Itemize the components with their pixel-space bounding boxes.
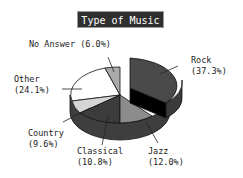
label-jazz: Jazz (12.0%): [148, 146, 184, 168]
label-no-answer: No Answer (6.0%): [29, 39, 111, 50]
label-classical: Classical (10.8%): [77, 146, 123, 168]
label-rock: Rock (37.3%): [191, 55, 227, 77]
label-country: Country (9.6%): [28, 128, 64, 150]
label-other: Other (24.1%): [14, 74, 50, 96]
